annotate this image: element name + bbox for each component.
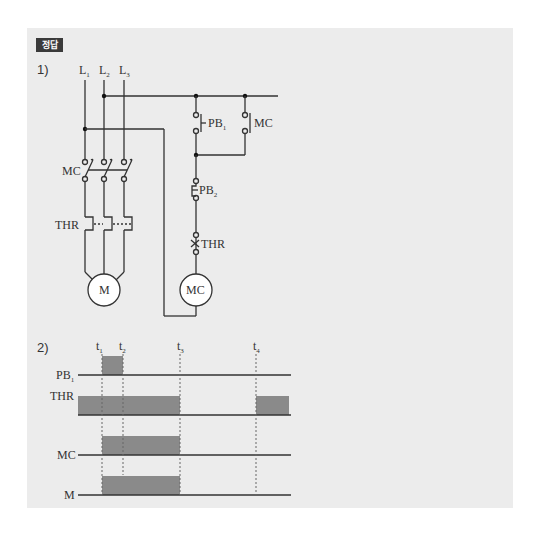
thr-high-2 bbox=[256, 396, 289, 415]
signal-label-pb1: PB1 bbox=[56, 368, 75, 384]
mc-high bbox=[102, 436, 180, 455]
thr-high-1 bbox=[78, 396, 180, 415]
timing-chart: t1 t2 t3 t4 PB1 THR MC M bbox=[0, 0, 539, 535]
signal-label-m: M bbox=[64, 488, 75, 502]
time-label-t2: t2 bbox=[119, 339, 126, 355]
signal-label-thr: THR bbox=[50, 389, 74, 403]
time-label-t1: t1 bbox=[96, 339, 103, 355]
pb1-high bbox=[102, 356, 123, 375]
time-label-t4: t4 bbox=[253, 339, 260, 355]
m-high bbox=[102, 476, 180, 495]
signal-label-mc: MC bbox=[57, 448, 76, 462]
time-label-t3: t3 bbox=[177, 339, 184, 355]
